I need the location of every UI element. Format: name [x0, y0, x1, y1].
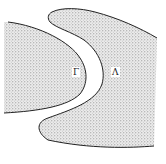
lambda-label: Λ: [111, 67, 120, 77]
gamma-label: Γ: [72, 67, 80, 77]
region-diagram-svg: [0, 0, 166, 164]
diagram-figure: Γ Λ: [0, 0, 166, 164]
